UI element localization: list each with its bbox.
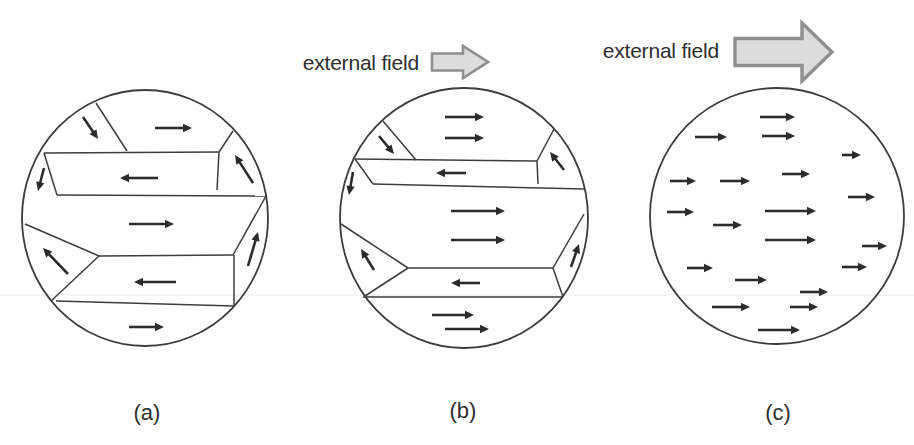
magnetic-domains-figure: external field external field (a) (b) (c… bbox=[0, 0, 914, 445]
panel-label-a: (a) bbox=[134, 400, 161, 425]
arrowhead bbox=[685, 208, 694, 216]
arrowhead bbox=[807, 207, 816, 215]
domain-wall bbox=[217, 152, 219, 190]
specimen-circle bbox=[22, 90, 268, 346]
external-field-label-b: external field bbox=[303, 51, 419, 74]
arrowhead bbox=[718, 133, 727, 141]
magnetization-arrow bbox=[790, 303, 818, 311]
magnetization-arrow bbox=[765, 236, 816, 244]
arrowhead bbox=[852, 151, 861, 159]
magnetization-arrow bbox=[550, 152, 564, 170]
magnetization-arrow bbox=[445, 134, 484, 142]
magnetization-arrow bbox=[451, 279, 480, 287]
arrowhead bbox=[120, 174, 129, 182]
arrowhead bbox=[165, 220, 174, 228]
magnetization-arrow bbox=[134, 278, 176, 286]
arrowhead bbox=[572, 244, 580, 254]
magnetization-arrow bbox=[248, 232, 259, 266]
magnetization-arrow bbox=[379, 136, 394, 154]
domain-wall bbox=[355, 159, 537, 161]
figure-canvas: external field external field (a) (b) (c… bbox=[0, 0, 914, 445]
magnetization-arrow bbox=[667, 208, 694, 216]
magnetization-arrow bbox=[712, 303, 750, 311]
arrowhead bbox=[475, 113, 484, 121]
domain-wall bbox=[25, 224, 99, 256]
panel-b bbox=[340, 88, 588, 348]
arrowhead bbox=[465, 311, 474, 319]
arrowhead bbox=[786, 132, 795, 140]
magnetization-arrow bbox=[129, 323, 164, 331]
magnetization-arrow bbox=[445, 113, 484, 121]
magnetization-arrow bbox=[235, 155, 253, 183]
arrowhead bbox=[480, 325, 489, 333]
magnetization-arrow bbox=[571, 244, 580, 267]
arrowhead bbox=[809, 303, 818, 311]
arrowhead bbox=[496, 236, 505, 244]
magnetization-arrow bbox=[762, 132, 795, 140]
magnetization-arrow bbox=[735, 276, 767, 284]
magnetization-arrow bbox=[436, 169, 466, 177]
panel-label-b: (b) bbox=[450, 398, 477, 423]
external-field-arrow-icon bbox=[432, 46, 488, 78]
arrowhead bbox=[786, 113, 795, 121]
magnetization-arrow bbox=[120, 174, 158, 182]
domain-wall bbox=[383, 121, 416, 160]
magnetization-arrow bbox=[445, 325, 489, 333]
magnetization-arrow bbox=[129, 220, 174, 228]
panel-c bbox=[650, 88, 904, 344]
domain-wall bbox=[365, 268, 408, 296]
arrowhead bbox=[791, 326, 800, 334]
arrowhead bbox=[801, 170, 810, 178]
domain-wall bbox=[219, 131, 233, 152]
arrowhead bbox=[134, 278, 143, 286]
arrowhead bbox=[251, 232, 259, 242]
specimen-circle bbox=[340, 88, 588, 348]
domain-wall bbox=[56, 301, 234, 306]
magnetization-arrow bbox=[361, 249, 374, 270]
arrowhead bbox=[807, 236, 816, 244]
arrowhead bbox=[741, 303, 750, 311]
arrowhead bbox=[866, 193, 875, 201]
magnetization-arrow bbox=[695, 133, 727, 141]
arrowhead bbox=[436, 169, 445, 177]
panel-label-c: (c) bbox=[765, 400, 791, 425]
domain-wall bbox=[373, 184, 585, 189]
domain-wall bbox=[553, 214, 584, 268]
arrowhead bbox=[36, 181, 44, 191]
arrowhead bbox=[346, 185, 354, 195]
domain-wall bbox=[44, 152, 219, 153]
domain-wall bbox=[57, 195, 266, 196]
domain-wall bbox=[341, 224, 408, 268]
magnetization-arrow bbox=[451, 236, 505, 244]
magnetization-arrow bbox=[862, 242, 887, 250]
arrowhead bbox=[878, 242, 887, 250]
domain-wall bbox=[355, 159, 373, 184]
magnetization-arrow bbox=[155, 124, 192, 132]
magnetization-arrow bbox=[83, 117, 98, 139]
external-field-arrow-icon bbox=[735, 23, 832, 81]
domain-wall bbox=[537, 161, 538, 184]
external-field-label-c: external field bbox=[603, 39, 719, 62]
magnetization-arrow bbox=[848, 193, 875, 201]
magnetization-arrow bbox=[451, 207, 505, 215]
arrowhead bbox=[155, 323, 164, 331]
arrowhead bbox=[475, 134, 484, 142]
magnetization-arrow bbox=[713, 221, 742, 229]
arrowhead bbox=[758, 276, 767, 284]
magnetization-arrow bbox=[432, 311, 474, 319]
domain-wall bbox=[233, 196, 266, 255]
arrowhead bbox=[496, 207, 505, 215]
arrowhead bbox=[183, 124, 192, 132]
specimen-circle bbox=[650, 88, 904, 344]
magnetization-arrow bbox=[782, 170, 810, 178]
magnetization-arrow bbox=[842, 151, 861, 159]
diagram-geometry bbox=[0, 23, 914, 348]
arrowhead bbox=[687, 177, 696, 185]
domain-wall bbox=[96, 103, 127, 151]
magnetization-arrow bbox=[36, 168, 44, 191]
magnetization-arrow bbox=[842, 263, 867, 271]
arrowhead bbox=[704, 264, 713, 272]
arrowhead bbox=[741, 177, 750, 185]
magnetization-arrow bbox=[670, 177, 696, 185]
magnetization-arrow bbox=[687, 264, 713, 272]
